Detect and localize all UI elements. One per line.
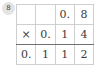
cell-r2c4[interactable]: 4 [74,25,93,45]
cell-r1c1[interactable] [17,5,36,25]
table-row-multiplicand: 0. 8 [17,5,94,25]
table-row-multiplier: × 0. 1 4 [17,25,94,45]
worksheet-canvas: 8 0. 8 × 0. 1 4 0. 1 1 2 [0,0,94,66]
cell-r2c3[interactable]: 1 [55,25,74,45]
cell-r3c4[interactable]: 2 [74,45,93,65]
cell-operator[interactable]: × [17,25,36,45]
table-row-product: 0. 1 1 2 [17,45,94,65]
cell-r1c3[interactable]: 0. [55,5,74,25]
multiplication-grid: 0. 8 × 0. 1 4 0. 1 1 2 [16,4,94,65]
cell-r1c4[interactable]: 8 [74,5,93,25]
cell-r3c3[interactable]: 1 [55,45,74,65]
cell-r1c2[interactable] [36,5,55,25]
cell-r2c2[interactable]: 0. [36,25,55,45]
cell-r3c2[interactable]: 1 [36,45,55,65]
cell-r3c1[interactable]: 0. [17,45,36,65]
question-number-badge: 8 [2,2,15,15]
